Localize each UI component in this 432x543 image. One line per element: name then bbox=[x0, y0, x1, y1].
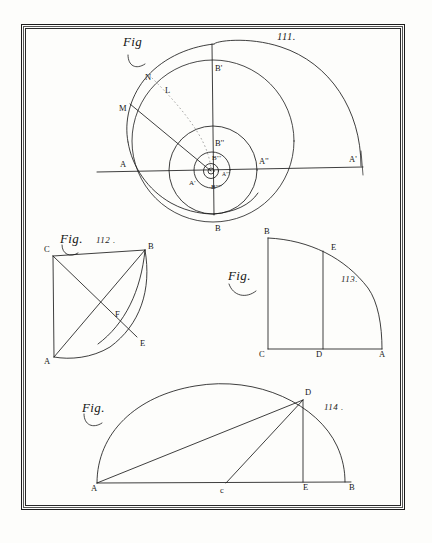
fig-114-number: 114 . bbox=[324, 402, 344, 412]
fig112-line-cb bbox=[53, 250, 145, 256]
fig111-label-b-triple-prime: B''' bbox=[212, 155, 221, 162]
fig-112-linework bbox=[53, 250, 147, 358]
fig-word-flourishes bbox=[62, 55, 256, 426]
fig-114-linework bbox=[97, 384, 351, 483]
fig111-spiral-outer-return bbox=[214, 193, 258, 214]
fig111-spiral-outer-upper bbox=[214, 40, 361, 166]
fig114-label-b: B bbox=[349, 483, 355, 492]
flourish-111 bbox=[128, 55, 145, 67]
fig111-label-a-left: A bbox=[120, 160, 126, 169]
fig114-label-c: c bbox=[220, 486, 224, 495]
fig114-label-e: E bbox=[303, 483, 308, 492]
fig113-label-d: D bbox=[316, 350, 322, 359]
fig111-label-a-double-prime: A'' bbox=[259, 157, 269, 166]
fig111-label-a-triple-prime: A''' bbox=[222, 172, 230, 178]
fig111-label-a-far-right: A' bbox=[349, 155, 357, 164]
fig111-label-a-prime-inner: A' bbox=[189, 180, 196, 187]
fig-113-word: Fig. bbox=[228, 268, 251, 284]
fig113-arc-ba bbox=[268, 238, 382, 349]
fig114-line-cd bbox=[226, 400, 303, 483]
fig111-label-b-prime: B' bbox=[215, 64, 223, 73]
engraving-plate: Fig 111. B' N L M B'' B''' A A'' A' A' A… bbox=[0, 0, 432, 543]
fig111-radius-to-m bbox=[130, 104, 211, 171]
fig112-label-e: E bbox=[140, 339, 145, 348]
fig113-label-e: E bbox=[331, 243, 336, 252]
fig111-label-b-quad-prime: B'''' bbox=[211, 184, 222, 191]
flourish-113 bbox=[229, 284, 256, 295]
plate-linework bbox=[0, 0, 432, 543]
fig-111-number: 111. bbox=[277, 31, 296, 42]
fig112-label-b: B bbox=[148, 242, 154, 251]
fig112-label-a: A bbox=[44, 357, 50, 366]
fig111-label-b-double-prime: B'' bbox=[215, 139, 224, 148]
fig114-line-ad bbox=[97, 400, 303, 483]
fig112-label-c: C bbox=[44, 245, 50, 254]
fig-111-word: Fig bbox=[123, 34, 142, 50]
fig112-line-ce bbox=[53, 256, 137, 337]
fig114-line-ab bbox=[97, 482, 351, 483]
fig114-label-a: A bbox=[91, 484, 97, 493]
fig111-label-m: M bbox=[119, 104, 127, 113]
fig-113-number: 113. bbox=[341, 274, 358, 284]
fig113-label-c: C bbox=[259, 350, 265, 359]
fig111-label-n: N bbox=[145, 73, 151, 82]
fig113-label-b: B bbox=[264, 227, 270, 236]
fig111-dotted-involute bbox=[152, 78, 211, 170]
fig111-label-l: L bbox=[165, 86, 170, 95]
fig-112-word: Fig. bbox=[60, 231, 83, 247]
fig112-line-ca bbox=[53, 256, 54, 357]
fig112-label-f: F bbox=[115, 310, 120, 319]
fig111-label-b-bottom: B bbox=[215, 224, 221, 233]
fig-113-linework bbox=[268, 238, 382, 349]
fig-111-linework bbox=[97, 40, 363, 222]
fig-114-word: Fig. bbox=[82, 400, 105, 416]
fig-112-number: 112 . bbox=[96, 235, 116, 245]
fig113-label-a: A bbox=[379, 350, 385, 359]
fig114-label-d: D bbox=[305, 388, 311, 397]
